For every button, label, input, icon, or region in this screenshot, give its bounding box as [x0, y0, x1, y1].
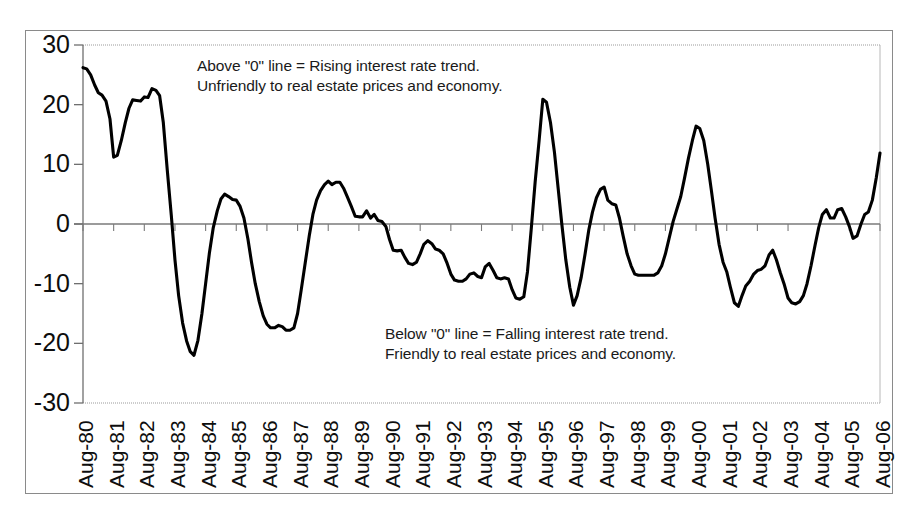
- x-tick-label: Aug-91: [412, 420, 433, 488]
- x-tick-label: Aug-01: [719, 420, 740, 488]
- chart-page: 3020100-10-20-30 Aug-80Aug-81Aug-82Aug-8…: [0, 0, 917, 518]
- x-tick-label: Aug-06: [872, 420, 893, 488]
- x-tick-label: Aug-02: [749, 420, 770, 488]
- y-tick-label: 0: [12, 211, 70, 236]
- x-tick-label: Aug-04: [811, 420, 832, 488]
- annotation-below-zero-line2: Friendly to real estate prices and econo…: [385, 345, 676, 363]
- annotation-above-zero: Above "0" line = Rising interest rate tr…: [197, 57, 502, 95]
- y-tick-label: 10: [12, 151, 70, 176]
- x-tick-label: Aug-89: [351, 420, 372, 488]
- x-tick-label: Aug-90: [382, 420, 403, 488]
- x-tick-label: Aug-82: [136, 420, 157, 488]
- y-tick-label: -30: [12, 390, 70, 415]
- x-tick-label: Aug-97: [596, 420, 617, 488]
- x-tick-label: Aug-03: [780, 420, 801, 488]
- x-tick-label: Aug-05: [841, 420, 862, 488]
- x-tick-label: Aug-00: [688, 420, 709, 488]
- data-series-layer: [83, 68, 880, 356]
- y-tick-label: -10: [12, 271, 70, 296]
- annotation-above-zero-line1: Above "0" line = Rising interest rate tr…: [197, 57, 502, 75]
- annotation-below-zero: Below "0" line = Falling interest rate t…: [385, 325, 676, 363]
- x-tick-label: Aug-80: [75, 420, 96, 488]
- x-tick-label: Aug-87: [290, 420, 311, 488]
- annotation-above-zero-line2: Unfriendly to real estate prices and eco…: [197, 77, 502, 95]
- x-tick-label: Aug-84: [198, 420, 219, 488]
- x-tick-label: Aug-98: [627, 420, 648, 488]
- y-tick-label: -20: [12, 330, 70, 355]
- x-tick-label: Aug-81: [106, 420, 127, 488]
- x-tick-label: Aug-92: [443, 420, 464, 488]
- x-tick-label: Aug-85: [228, 420, 249, 488]
- x-tick-label: Aug-86: [259, 420, 280, 488]
- x-tick-label: Aug-83: [167, 420, 188, 488]
- x-tick-label: Aug-88: [320, 420, 341, 488]
- x-tick-label: Aug-94: [504, 420, 525, 488]
- annotation-below-zero-line1: Below "0" line = Falling interest rate t…: [385, 325, 676, 343]
- x-tick-label: Aug-93: [474, 420, 495, 488]
- x-tick-label: Aug-96: [565, 420, 586, 488]
- y-tick-label: 30: [12, 32, 70, 57]
- x-tick-label: Aug-99: [657, 420, 678, 488]
- y-tick-label: 20: [12, 92, 70, 117]
- x-tick-label: Aug-95: [535, 420, 556, 488]
- data-line-interest-rate-trend: [83, 68, 880, 356]
